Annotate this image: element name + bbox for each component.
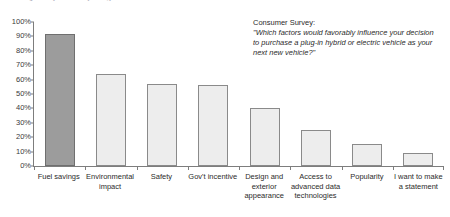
bar[interactable] (45, 34, 75, 166)
x-axis-category-label: Design and exterior appearance (239, 172, 290, 201)
annotation-title: Consumer Survey: (253, 18, 439, 28)
bar-slot (34, 22, 85, 166)
x-axis-category-label: Gov't incentive (187, 172, 238, 201)
y-axis-tick-label: 40% (16, 105, 31, 113)
bar-slot (85, 22, 136, 166)
x-axis-tick-mark (34, 166, 35, 170)
y-axis-tick-label: 100% (12, 18, 31, 26)
bar-slot (137, 22, 188, 166)
x-axis-tick-mark (188, 166, 189, 170)
x-axis-category-label: Fuel savings (33, 172, 84, 201)
annotation-question: "Which factors would favorably influence… (253, 28, 439, 58)
bar-slot (188, 22, 239, 166)
bar[interactable] (198, 85, 228, 166)
y-axis-tick-label: 20% (16, 133, 31, 141)
x-axis-tick-mark (443, 166, 444, 170)
x-axis-tick-mark (290, 166, 291, 170)
x-axis-tick-mark (239, 166, 240, 170)
x-axis-category-label: Environmental impact (84, 172, 135, 201)
bar[interactable] (250, 108, 280, 166)
bar[interactable] (147, 84, 177, 166)
x-axis-tick-mark (393, 166, 394, 170)
x-axis-category-label: Safety (136, 172, 187, 201)
y-axis-tick-label: 70% (16, 61, 31, 69)
x-axis-category-label: Access to advanced data technologies (290, 172, 341, 201)
y-axis-tick-label: 10% (16, 148, 31, 156)
bar[interactable] (96, 74, 126, 166)
x-axis-tick-mark (85, 166, 86, 170)
bar-chart: 100%90%80%70%60%50%40%30%20%10%0% Fuel s… (0, 0, 450, 217)
y-axis-tick-label: 90% (16, 33, 31, 41)
x-axis-tick-mark (342, 166, 343, 170)
x-axis-tick-mark (137, 166, 138, 170)
x-axis-category-label: Popularity (341, 172, 392, 201)
bar[interactable] (301, 130, 331, 166)
y-axis-tick-label: 0% (20, 162, 31, 170)
y-axis-tick-label: 30% (16, 119, 31, 127)
x-axis-labels: Fuel savingsEnvironmental impactSafetyGo… (33, 172, 444, 201)
x-axis-category-label: I want to make a statement (393, 172, 444, 201)
y-axis-tick-label: 50% (16, 90, 31, 98)
y-axis-tick-label: 80% (16, 47, 31, 55)
y-axis-tick-label: 60% (16, 76, 31, 84)
bar[interactable] (403, 153, 433, 166)
bar[interactable] (352, 144, 382, 166)
survey-annotation: Consumer Survey: "Which factors would fa… (253, 18, 439, 58)
